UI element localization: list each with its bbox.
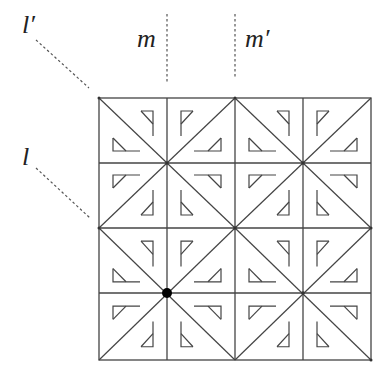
mirror-line-l-prime — [36, 40, 89, 88]
label-m: m — [137, 26, 156, 52]
figure-canvas — [0, 0, 387, 371]
label-l-prime: l′ — [22, 12, 35, 38]
center-point — [162, 288, 172, 298]
symmetry-figure: l′ m m′ l — [0, 0, 387, 371]
mirror-lines — [36, 14, 235, 218]
mirror-line-l — [36, 168, 90, 218]
label-m-prime: m′ — [245, 26, 269, 52]
label-l: l — [22, 144, 29, 170]
